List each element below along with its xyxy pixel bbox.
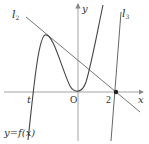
line-l3 <box>111 12 121 141</box>
curve-f <box>28 5 103 140</box>
l3-label: l3 <box>122 7 130 20</box>
two-label: 2 <box>106 94 111 105</box>
function-graph: x y O t 2 l2 l3 y=f(x) <box>0 0 149 144</box>
y-axis-label: y <box>81 3 88 14</box>
line-l2 <box>26 17 140 112</box>
x-axis-label: x <box>138 94 144 105</box>
point-2-0 <box>114 90 118 94</box>
t-label: t <box>27 94 32 105</box>
l2-label: l2 <box>12 8 20 21</box>
origin-label: O <box>70 94 77 105</box>
curve-label: y=f(x) <box>3 127 35 138</box>
